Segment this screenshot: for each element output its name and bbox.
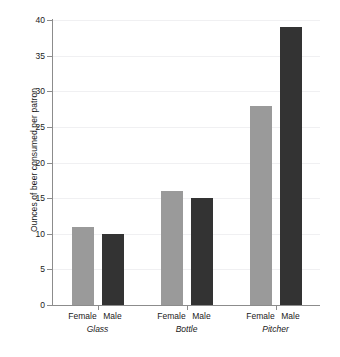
y-tick-mark <box>47 20 52 21</box>
bar-bottle-male <box>191 198 213 305</box>
bar-bottle-female <box>161 191 183 305</box>
y-tick-mark <box>47 56 52 57</box>
y-tick-label: 40 <box>0 15 45 25</box>
plot-area <box>53 20 320 305</box>
bar-pitcher-female <box>250 106 272 306</box>
x-tick-mark <box>276 306 277 310</box>
x-axis-label-male: Male <box>261 311 321 321</box>
x-tick-mark <box>98 306 99 310</box>
y-tick-label: 25 <box>0 122 45 132</box>
y-tick-mark <box>47 91 52 92</box>
y-tick-mark <box>47 163 52 164</box>
y-tick-mark <box>47 234 52 235</box>
bar-pitcher-male <box>280 27 302 305</box>
x-axis-label-male: Male <box>83 311 143 321</box>
x-axis-label-male: Male <box>172 311 232 321</box>
group-label-pitcher: Pitcher <box>216 324 336 334</box>
y-tick-mark <box>47 127 52 128</box>
bar-glass-male <box>102 234 124 305</box>
gridline <box>53 20 320 21</box>
y-tick-label: 10 <box>0 229 45 239</box>
bar-glass-female <box>72 227 94 305</box>
y-tick-label: 15 <box>0 193 45 203</box>
y-tick-mark <box>47 198 52 199</box>
bar-chart: Ounces of beer consumed per patron 05101… <box>0 0 340 357</box>
y-tick-mark <box>47 305 52 306</box>
y-tick-label: 0 <box>0 300 45 310</box>
x-tick-mark <box>187 306 188 310</box>
y-tick-label: 20 <box>0 158 45 168</box>
y-tick-mark <box>47 269 52 270</box>
y-tick-label: 5 <box>0 264 45 274</box>
y-tick-label: 35 <box>0 51 45 61</box>
y-tick-label: 30 <box>0 86 45 96</box>
